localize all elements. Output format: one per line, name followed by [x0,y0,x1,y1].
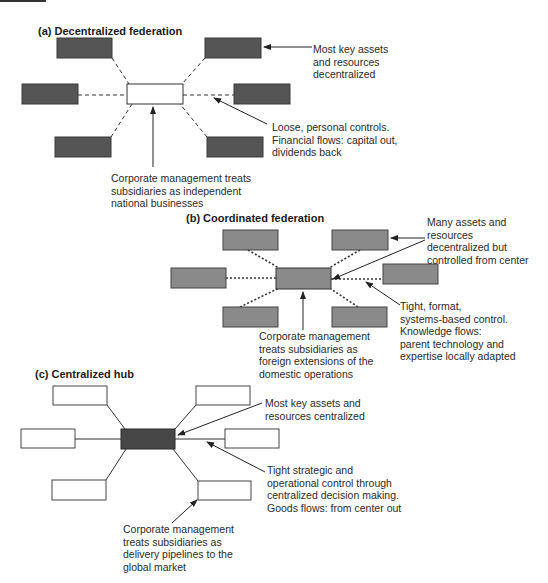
subsidiary-box [205,38,261,58]
subsidiary-box [332,307,387,327]
section-b-assets-note: Many assets and resources decentralized … [427,216,529,266]
section-a-title: (a) Decentralized federation [38,25,182,37]
subsidiary-box [223,307,278,327]
subsidiary-box [22,84,78,104]
subsidiary-box [52,480,106,500]
section-c-management-note: Corporate management treats subsidiaries… [123,523,234,573]
subsidiary-box [55,137,111,157]
subsidiary-box [198,481,251,500]
section-a-diagram [22,38,312,167]
subsidiary-box [223,230,278,250]
section-c-diagram [21,386,279,523]
subsidiary-box [53,386,107,405]
section-b-controls-note: Tight, format, systems-based control. Kn… [400,300,516,363]
headquarters-box [127,84,183,104]
section-b-management-note: Corporate management treats subsidiaries… [259,330,373,380]
subsidiary-box [21,429,75,448]
section-a-controls-note: Loose, personal controls. Financial flow… [272,121,397,159]
section-a-assets-note: Most key assets and resources decentrali… [313,43,388,81]
subsidiary-box [332,230,388,250]
subsidiary-box [234,84,290,104]
subsidiary-box [207,137,263,157]
section-c-controls-note: Tight strategic and operational control … [267,464,401,514]
section-c-title: (c) Centralized hub [35,368,134,380]
section-b-diagram [171,230,438,330]
headquarters-box [276,268,331,289]
subsidiary-box [57,38,112,58]
subsidiary-box [225,429,279,448]
section-b-title: (b) Coordinated federation [186,212,324,224]
subsidiary-box [383,264,438,284]
section-a-management-note: Corporate management treats subsidiaries… [111,172,251,210]
subsidiary-box [196,386,250,405]
subsidiary-box [171,268,226,288]
section-c-assets-note: Most key assets and resources centralize… [265,397,365,422]
headquarters-box [121,429,175,449]
